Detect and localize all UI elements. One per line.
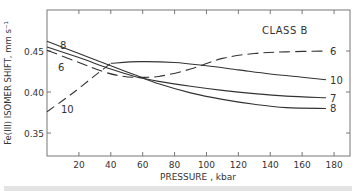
data-curves [47, 41, 326, 112]
x-tick-label: 120 [230, 160, 247, 170]
curve-label: 8 [60, 40, 66, 51]
curve-label: 10 [61, 104, 74, 115]
x-tick-label: 60 [137, 160, 149, 170]
isomer-shift-chart: 20406080100120140160180 0.350.400.45 876… [0, 0, 356, 191]
x-tick-label: 20 [73, 160, 85, 170]
curve-label: 6 [330, 46, 336, 57]
class-label: CLASS B [262, 25, 308, 36]
y-tick-label: 0.45 [24, 47, 44, 57]
curve-7 [47, 47, 326, 98]
x-tick-label: 80 [169, 160, 181, 170]
y-tick-label: 0.40 [24, 88, 44, 98]
x-tick-label: 160 [294, 160, 311, 170]
x-tick-label: 180 [325, 160, 342, 170]
x-tick-label: 100 [198, 160, 215, 170]
curve-label: 10 [330, 75, 343, 86]
x-tick-label: 140 [262, 160, 279, 170]
y-tick-label: 0.35 [24, 129, 44, 139]
figure-caption-cut-off [4, 186, 352, 191]
x-axis-title: PRESSURE , kbar [160, 172, 236, 182]
curve-label: 7 [330, 93, 336, 104]
x-tick-label: 40 [105, 160, 117, 170]
y-axis-title: Fe(III) ISOMER SHIFT, mm s⁻¹ [3, 21, 13, 145]
curve-label: 8 [330, 103, 336, 114]
curve-8 [47, 41, 326, 108]
curve-label: 6 [58, 62, 64, 73]
